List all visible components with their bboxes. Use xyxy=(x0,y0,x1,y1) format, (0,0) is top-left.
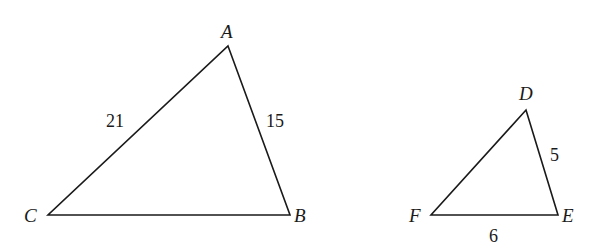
side-length-de: 5 xyxy=(550,145,559,165)
vertex-label-f: F xyxy=(408,205,421,226)
similar-triangles-diagram: A B C 21 15 D E F 5 6 xyxy=(0,0,604,247)
vertex-label-a: A xyxy=(219,21,233,42)
side-length-ab: 15 xyxy=(266,111,284,131)
vertex-label-c: C xyxy=(24,205,37,226)
vertex-label-e: E xyxy=(561,205,574,226)
triangle-def xyxy=(431,110,558,215)
side-length-fe: 6 xyxy=(489,226,498,246)
vertex-label-d: D xyxy=(518,83,533,104)
vertex-label-b: B xyxy=(294,205,306,226)
triangle-abc xyxy=(48,46,290,215)
side-length-ac: 21 xyxy=(106,111,124,131)
